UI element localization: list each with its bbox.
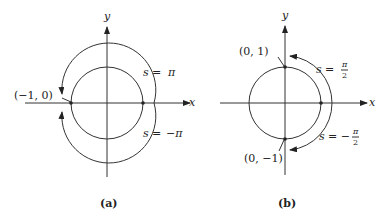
arc-upper-den: 2 [342,71,347,80]
point-bottom-leader [279,140,284,151]
arc-lower-s: s [143,127,149,140]
arc-s-neg-pi-over-2 [290,103,332,150]
arc-lower-den: 2 [353,138,358,147]
panel-b: y x (0, 1) (0, −1) s = π 2 s = − π 2 (b) [220,9,376,210]
point-1-0 [319,101,323,105]
point-leader [62,98,71,102]
arc-upper-eq: = [325,63,334,76]
arc-lower-eq: = [152,127,161,140]
arc-lower-value: −π [166,127,183,140]
y-axis-label: y [281,9,289,22]
arc-upper-eq: = [152,66,161,79]
point-label: (−1, 0) [14,89,53,102]
arc-upper-num: π [341,60,348,69]
arc-lower-eq: = − [328,130,350,143]
arc-lower-num: π [352,127,359,136]
x-axis-label: x [369,96,376,109]
unit-circle-diagram: y x (−1, 0) s = π s = −π (a) y x (0, 1) … [0,0,384,223]
point-top-label: (0, 1) [239,45,269,58]
point-bottom-label: (0, −1) [244,152,283,165]
arc-upper-s: s [316,63,322,76]
point-top-leader [278,57,284,66]
panel-a: y x (−1, 0) s = π s = −π (a) [14,10,196,210]
arc-lower-s: s [319,130,325,143]
arc-upper-s: s [143,66,149,79]
point-1-0 [141,101,145,105]
caption-a: (a) [100,197,118,210]
caption-b: (b) [278,197,296,210]
y-axis-label: y [103,10,111,23]
x-axis-label: x [189,96,196,109]
arc-upper-value: π [167,66,176,79]
